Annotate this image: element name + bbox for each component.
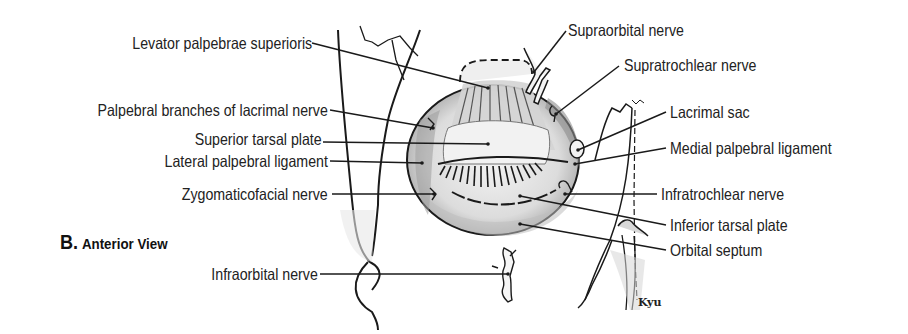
- label-infratrochlear-nerve: Infratrochlear nerve: [661, 185, 784, 203]
- label-infraorbital-nerve: Infraorbital nerve: [212, 265, 318, 283]
- label-levator-palpebrae-superioris: Levator palpebrae superioris: [132, 34, 312, 52]
- label-inferior-tarsal-plate: Inferior tarsal plate: [670, 216, 788, 234]
- label-lacrimal-sac: Lacrimal sac: [670, 103, 750, 121]
- label-medial-palpebral-ligament: Medial palpebral ligament: [670, 139, 832, 157]
- label-zygomaticofacial-nerve: Zygomaticofacial nerve: [182, 185, 328, 203]
- label-lateral-palpebral-ligament: Lateral palpebral ligament: [165, 152, 328, 170]
- orbital-septum-region: [407, 60, 580, 236]
- panel-letter: B.: [60, 230, 78, 253]
- label-supratrochlear-nerve: Supratrochlear nerve: [624, 56, 757, 74]
- label-supraorbital-nerve: Supraorbital nerve: [568, 21, 684, 39]
- label-palpebral-branches-lacrimal-nerve: Palpebral branches of lacrimal nerve: [98, 101, 328, 119]
- artist-signature: Kyu: [638, 296, 661, 309]
- panel-title: Anterior View: [82, 235, 168, 252]
- panel-caption: B. Anterior View: [60, 230, 168, 254]
- face-contour-lateral: [338, 30, 420, 330]
- label-superior-tarsal-plate: Superior tarsal plate: [195, 130, 322, 148]
- anatomy-figure: Levator palpebrae superioris Palpebral b…: [0, 0, 908, 334]
- label-orbital-septum: Orbital septum: [670, 241, 762, 259]
- infraorbital-nerve: [492, 248, 516, 302]
